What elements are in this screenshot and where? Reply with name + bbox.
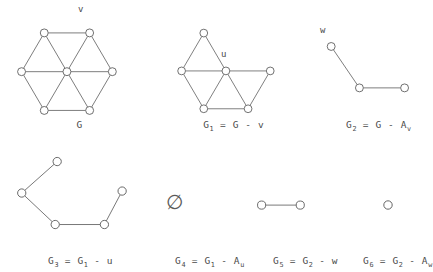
graph-node [51, 220, 59, 228]
graph-node [18, 189, 26, 197]
graph-G3 [6, 152, 130, 238]
graph-edge [92, 75, 111, 107]
caption-G4-tail: - A [215, 255, 240, 266]
graph-edge [228, 74, 246, 105]
caption-G1: G1 = G - v [178, 110, 264, 141]
graph-edge [92, 36, 111, 68]
caption-G6-tail-sub: w [428, 260, 432, 268]
graph-node [108, 68, 116, 76]
graph-node [258, 201, 266, 209]
graph-node [118, 187, 126, 195]
graph-node [222, 67, 230, 75]
graph-edge [24, 36, 43, 68]
caption-G: G [42, 110, 92, 139]
caption-G5-tail: - w [313, 255, 338, 266]
panel-G5 [250, 196, 308, 220]
caption-G3-tail: - u [88, 255, 113, 266]
vertex-label-w: w [320, 26, 325, 35]
panel-G2 [318, 37, 414, 103]
graph-node [18, 68, 26, 76]
graph-G5 [250, 196, 308, 220]
graph-G1 [173, 22, 277, 118]
graph-edge [69, 36, 88, 68]
graph-edge [24, 75, 43, 107]
panel-G1 [173, 22, 277, 118]
caption-G3-rest: = G [59, 255, 84, 266]
graph-node [53, 157, 61, 165]
caption-G4: G4 = G1 - Au [143, 246, 251, 272]
caption-G1-rest: = G - v [214, 119, 265, 130]
graph-edge [69, 75, 88, 107]
caption-G-main: G [76, 119, 82, 130]
graph-edge [184, 36, 202, 67]
graph-node [40, 29, 48, 37]
graph-edge [184, 74, 202, 105]
graph-edge [250, 74, 268, 105]
graph-G2 [318, 37, 414, 103]
caption-G2-rest: = G - A [357, 119, 408, 130]
vertex-label-v: v [78, 5, 83, 14]
graph-edge [25, 164, 54, 190]
graph-edge [25, 196, 52, 222]
caption-G6-rest: = G [373, 255, 398, 266]
graph-G [14, 14, 118, 118]
graph-edge [206, 74, 224, 105]
vertex-label-u: u [221, 50, 226, 59]
caption-G4-tail-sub: u [240, 260, 244, 268]
graph-edge [46, 36, 65, 68]
caption-G6-tail: - A [403, 255, 428, 266]
graph-edge [106, 195, 120, 221]
panel-G [14, 14, 118, 118]
graph-G6 [376, 196, 400, 220]
caption-G5: G5 = G2 - w [245, 246, 341, 272]
caption-G6: G6 = G2 - Aw [337, 246, 433, 272]
panel-G6 [376, 196, 400, 220]
graph-edge [333, 50, 357, 85]
panel-G4: ∅ [160, 188, 208, 232]
graph-node [63, 68, 71, 76]
graph-node [401, 84, 409, 92]
panel-G3 [6, 152, 130, 238]
caption-G2: G2 = G - Av [312, 110, 420, 141]
graph-node [200, 29, 208, 37]
graph-node [100, 220, 108, 228]
graph-node [178, 67, 186, 75]
graph-node [266, 67, 274, 75]
empty-set-icon: ∅ [166, 192, 183, 212]
graph-edge [46, 75, 65, 107]
graph-node [384, 201, 392, 209]
graph-node [327, 43, 335, 51]
caption-G4-rest: = G [185, 255, 210, 266]
graph-node [355, 84, 363, 92]
caption-G5-rest: = G [284, 255, 309, 266]
graph-node [296, 201, 304, 209]
graph-node [86, 29, 94, 37]
caption-G2-rest-sub: v [407, 124, 411, 132]
caption-G3: G3 = G1 - u [14, 246, 122, 272]
